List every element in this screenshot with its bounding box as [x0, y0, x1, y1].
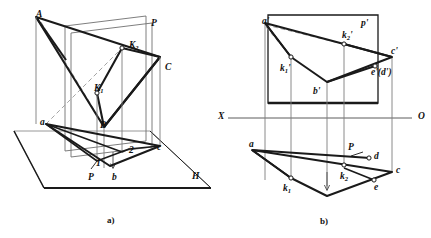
label-k2-prime: k2' — [342, 31, 353, 41]
label-d-plain: d — [374, 152, 379, 162]
marker-k2-plain — [342, 163, 346, 167]
label-H-plane: H — [192, 172, 199, 182]
axis-label-O: O — [418, 112, 425, 122]
caption-a: a) — [107, 215, 115, 225]
label-B: B — [100, 121, 106, 131]
caption-b: b) — [320, 216, 328, 226]
marker-d-plain — [367, 156, 371, 160]
panel-a-geometry — [14, 16, 211, 188]
label-ed-prime: e'(d') — [371, 68, 392, 78]
label-c-small: c — [157, 143, 161, 153]
label-a-plain: a — [249, 140, 254, 150]
label-K1: K1 — [94, 84, 104, 94]
intersection-kite — [97, 48, 160, 127]
label-A: A — [36, 10, 42, 20]
label-C: C — [165, 63, 171, 73]
label-b-prime: b' — [313, 87, 320, 97]
technical-drawing-figure: A P K2 C K1 B a 2 c 1 P b H X O a' — [0, 0, 431, 238]
marker-k2-prime — [342, 42, 346, 46]
label-c-prime: c' — [391, 47, 398, 57]
ground-poly-inner — [46, 124, 129, 161]
panel-b-geometry — [228, 15, 412, 196]
front-view-edge-k2-to-c — [344, 44, 392, 57]
label-a-small: a — [40, 118, 45, 128]
label-c-plain: c — [396, 166, 400, 176]
marker-k1-prime — [289, 55, 293, 59]
h-plane-right-edge — [150, 131, 211, 188]
label-k1-plain: k1 — [283, 184, 291, 194]
dashed-a-to-k2 — [46, 48, 122, 124]
label-b-small: b — [112, 173, 117, 183]
top-view-edge-k2-to-e — [344, 168, 374, 180]
label-K2: K2 — [129, 41, 139, 51]
ridge-A-to-fold — [36, 17, 66, 60]
label-P-trace: P — [88, 173, 94, 183]
label-P-trace-b: P — [348, 143, 354, 153]
figure-svg — [0, 0, 431, 238]
label-k1-prime: k1' — [280, 64, 291, 74]
label-1-small: 1 — [96, 159, 101, 169]
label-k2-plain: k2 — [340, 172, 348, 182]
axis-label-X: X — [218, 112, 224, 122]
label-2-small: 2 — [129, 146, 134, 156]
marker-k1-plain — [289, 176, 293, 180]
label-e-plain: e — [374, 183, 378, 193]
label-P-plane: P — [151, 19, 157, 29]
label-a-prime: a' — [262, 17, 269, 27]
h-plane-left-edge — [14, 131, 44, 188]
label-p-prime: p' — [361, 19, 368, 29]
triangle-abc — [36, 17, 160, 127]
front-view-edge-b-to-ed — [327, 66, 375, 82]
marker-K2 — [120, 46, 124, 50]
